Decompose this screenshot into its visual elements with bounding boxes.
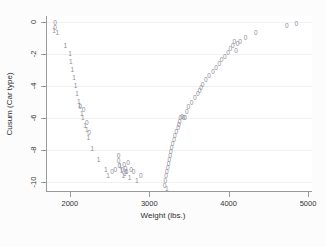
x-axis-tick-label: 3000 [141, 199, 158, 208]
y-axis-tick-label: -6 [29, 115, 38, 122]
x-axis-tick-label: 5000 [300, 199, 317, 208]
data-point-1: 1 [165, 186, 169, 193]
gridline-horizontal [47, 54, 312, 55]
data-point-1: 1 [128, 175, 132, 182]
data-point-1: 1 [75, 90, 79, 97]
y-axis-tick [41, 118, 46, 119]
data-point-1: 1 [78, 102, 82, 109]
y-axis-tick-label: 0 [29, 20, 38, 24]
gridline-horizontal [47, 150, 312, 151]
y-axis-tick [41, 86, 46, 87]
data-point-0: 0 [285, 22, 289, 29]
data-point-0: 0 [132, 169, 136, 176]
data-point-0: 0 [244, 34, 248, 41]
data-point-0: 0 [254, 30, 258, 37]
y-axis-tick-label: -4 [29, 83, 38, 90]
y-axis-tick [41, 22, 46, 23]
data-point-0: 0 [295, 20, 299, 27]
data-point-1: 1 [69, 58, 73, 65]
data-point-1: 1 [68, 50, 72, 57]
y-axis-tick [41, 150, 46, 151]
x-axis-tick [229, 192, 230, 197]
data-point-0: 0 [139, 173, 143, 180]
x-axis-tick-label: 4000 [220, 199, 237, 208]
data-point-1: 1 [97, 157, 101, 164]
y-axis-tick-label: -8 [29, 147, 38, 154]
data-point-1: 1 [86, 134, 90, 141]
data-point-1: 1 [106, 173, 110, 180]
data-point-1: 1 [90, 146, 94, 153]
x-axis-tick [308, 192, 309, 197]
plot-area: 0000000000000000000000000000000000000000… [46, 16, 312, 192]
x-axis-title: Weight (lbs.) [0, 211, 326, 220]
data-point-1: 1 [56, 30, 60, 37]
data-point-0: 0 [183, 115, 187, 122]
data-point-0: 0 [234, 48, 238, 55]
data-point-0: 0 [238, 38, 242, 45]
chart-screenshot: 0000000000000000000000000000000000000000… [0, 0, 326, 247]
y-axis-tick [41, 54, 46, 55]
y-axis-title: Cusum (Car type) [5, 72, 14, 135]
gridline-horizontal [47, 22, 312, 23]
x-axis-tick-label: 2000 [61, 199, 78, 208]
x-axis-tick [70, 192, 71, 197]
x-axis-tick [149, 192, 150, 197]
data-point-1: 1 [74, 82, 78, 89]
y-axis-tick-label: -10 [29, 177, 38, 188]
data-point-1: 1 [63, 42, 67, 49]
y-axis-tick-label: -2 [29, 51, 38, 58]
gridline-horizontal [47, 86, 312, 87]
data-point-1: 1 [81, 114, 85, 121]
data-point-1: 1 [72, 74, 76, 81]
y-axis-tick [41, 182, 46, 183]
data-point-1: 1 [135, 178, 139, 185]
data-point-1: 1 [71, 66, 75, 73]
gridline-horizontal [47, 182, 312, 183]
